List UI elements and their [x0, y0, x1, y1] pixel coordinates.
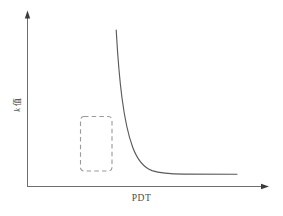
y-axis-label-symbol: k: [12, 108, 22, 112]
figure-container: k值 PDT: [0, 0, 283, 216]
y-axis-arrowhead: [25, 11, 30, 19]
x-axis-label: PDT: [0, 194, 283, 204]
plot-canvas: [0, 0, 283, 216]
decay-curve: [116, 30, 237, 174]
y-axis-label-word: 值: [13, 98, 22, 106]
dashed-region-annotation: [81, 117, 113, 172]
y-axis-label: k值: [13, 98, 22, 111]
x-axis-arrowhead: [261, 184, 269, 189]
y-axis-label-container: k值: [0, 88, 34, 122]
